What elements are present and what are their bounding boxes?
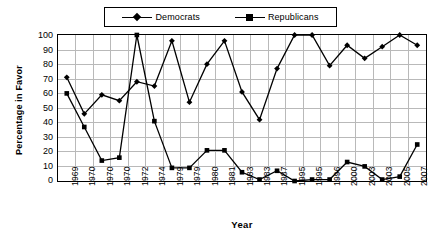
- x-tick-label: 2000: [350, 166, 359, 186]
- legend-entry-democrats: Democrats: [122, 12, 199, 22]
- y-tick-label: 0: [29, 176, 53, 185]
- x-tick-label: 2005: [403, 166, 412, 186]
- y-tick-label: 20: [29, 147, 53, 156]
- y-axis-title: Percentage in Favor: [14, 55, 24, 165]
- y-tick-label: 50: [29, 104, 53, 113]
- data-point-democrats-1974: [151, 83, 157, 89]
- y-tick-label: 40: [29, 118, 53, 127]
- x-tick-label: 1970: [123, 166, 132, 186]
- x-tick-label: 1979: [176, 166, 185, 186]
- data-point-republicans-1981: [222, 148, 227, 153]
- x-tick-label: 1980: [211, 166, 220, 186]
- y-tick-label: 70: [29, 75, 53, 84]
- data-point-democrats-1979: [169, 38, 175, 44]
- legend-label-republicans: Republicans: [268, 12, 319, 22]
- y-tick-label: 30: [29, 133, 53, 142]
- x-tick-label: 1996: [333, 166, 342, 186]
- y-tick-label: 90: [29, 46, 53, 55]
- x-tick-label: 1979: [193, 166, 202, 186]
- data-point-republicans-1972: [135, 33, 140, 38]
- x-tick-label: 1970: [88, 166, 97, 186]
- legend-label-democrats: Democrats: [155, 12, 199, 22]
- data-point-republicans-1980: [205, 148, 210, 153]
- data-point-democrats-1995: [309, 32, 315, 38]
- x-tick-label: 1995: [315, 166, 324, 186]
- y-tick-label: 80: [29, 60, 53, 69]
- data-point-republicans-1979: [170, 166, 175, 171]
- data-point-republicans-1970: [82, 125, 87, 130]
- republicans-series-marker-icon: [235, 12, 265, 22]
- x-tick-label: 2007: [420, 166, 429, 186]
- x-axis-tick-labels: 1969197019701970197219741979197919801981…: [57, 184, 427, 218]
- data-point-republicans-1969: [64, 91, 69, 96]
- data-point-republicans-1983: [240, 170, 245, 175]
- data-point-republicans-1970: [117, 155, 122, 160]
- x-tick-label: 1983: [246, 166, 255, 186]
- data-point-republicans-2000: [345, 160, 350, 165]
- x-tick-label: 1981: [228, 166, 237, 186]
- data-point-democrats-1979: [187, 99, 193, 105]
- y-tick-label: 100: [29, 31, 53, 40]
- data-point-republicans-2007: [415, 142, 420, 147]
- data-point-republicans-1970: [100, 158, 105, 163]
- chart-series-layer: [58, 35, 426, 181]
- x-tick-label: 1969: [71, 166, 80, 186]
- chart-plot-area: [57, 34, 427, 182]
- data-point-democrats-1987: [274, 66, 280, 72]
- democrats-series-marker-icon: [122, 12, 152, 22]
- chart-legend: Democrats Republicans: [104, 7, 337, 27]
- x-tick-label: 1987: [280, 166, 289, 186]
- y-tick-label: 60: [29, 89, 53, 98]
- x-tick-label: 1972: [141, 166, 150, 186]
- data-point-democrats-1969: [64, 74, 70, 80]
- series-line-democrats: [67, 35, 417, 120]
- x-axis-title: Year: [57, 219, 427, 230]
- data-point-republicans-1974: [152, 119, 157, 124]
- data-point-democrats-2007: [414, 42, 420, 48]
- legend-entry-republicans: Republicans: [235, 12, 319, 22]
- x-tick-label: 1974: [158, 166, 167, 186]
- data-point-democrats-1995: [292, 32, 298, 38]
- x-tick-label: 1983: [263, 166, 272, 186]
- x-tick-label: 2003: [368, 166, 377, 186]
- y-tick-label: 10: [29, 162, 53, 171]
- x-tick-label: 2003: [385, 166, 394, 186]
- x-tick-label: 1970: [106, 166, 115, 186]
- x-tick-label: 1995: [298, 166, 307, 186]
